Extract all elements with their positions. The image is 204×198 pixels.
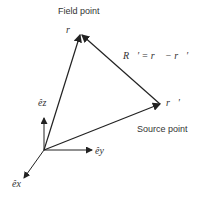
field-point-label: Field point bbox=[58, 6, 100, 16]
ey-label: êy bbox=[95, 145, 104, 156]
ez-label: êz bbox=[38, 97, 46, 108]
relation-label: R⃗′ = r⃗ − r⃗′ bbox=[123, 50, 188, 61]
source-point-label: Source point bbox=[137, 124, 188, 134]
field-vector-arrow bbox=[44, 35, 80, 150]
ex-axis-arrow bbox=[24, 150, 44, 178]
r-prime-difference-arrow bbox=[82, 35, 160, 104]
ex-label: êx bbox=[12, 178, 21, 189]
field-vector-label: r⃗ bbox=[66, 24, 78, 35]
source-vector-label: r⃗′ bbox=[166, 97, 180, 108]
